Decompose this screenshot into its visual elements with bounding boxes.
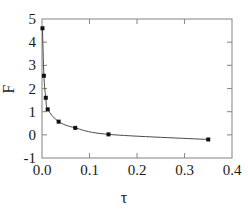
y-tick-label: 0 — [29, 127, 37, 143]
data-point-marker — [40, 26, 44, 30]
y-tick-label: 3 — [29, 57, 37, 73]
x-tick-label: 0.4 — [223, 162, 242, 178]
data-point-marker — [206, 137, 210, 141]
y-tick-label: -1 — [24, 150, 37, 166]
x-tick-label: 0.2 — [128, 162, 147, 178]
chart-background — [0, 0, 248, 213]
data-point-marker — [57, 120, 61, 124]
y-tick-label: 4 — [29, 34, 37, 50]
scatter-plot: 0.00.10.20.30.4 -1012345 τ F — [0, 0, 248, 213]
data-point-marker — [107, 132, 111, 136]
data-point-marker — [44, 96, 48, 100]
y-tick-label: 5 — [29, 11, 37, 27]
y-tick-label: 1 — [29, 104, 37, 120]
data-point-marker — [73, 126, 77, 130]
data-point-marker — [46, 107, 50, 111]
y-axis-title: F — [0, 84, 17, 93]
x-tick-label: 0.1 — [80, 162, 99, 178]
y-tick-label: 2 — [29, 81, 37, 97]
x-tick-label: 0.3 — [175, 162, 194, 178]
x-axis-title: τ — [121, 189, 128, 206]
chart-figure: 0.00.10.20.30.4 -1012345 τ F — [0, 0, 248, 213]
data-point-marker — [42, 74, 46, 78]
